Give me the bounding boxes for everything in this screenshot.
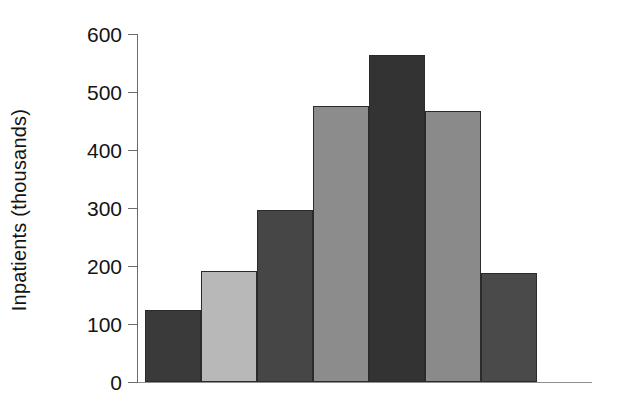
- bar-chart: Inpatients (thousands) 600 500 400 300 2…: [0, 0, 624, 420]
- bar-1: [145, 310, 201, 383]
- bar-7: [481, 273, 537, 382]
- bar-4: [313, 106, 369, 382]
- bar-6: [425, 111, 481, 382]
- bar-5: [369, 55, 425, 382]
- bar-2: [201, 271, 257, 382]
- bars-layer: [0, 0, 624, 420]
- bar-3: [257, 210, 313, 382]
